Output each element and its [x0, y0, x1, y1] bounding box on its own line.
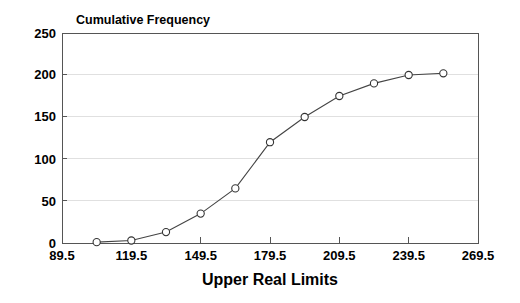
data-point — [370, 80, 377, 87]
chart-canvas: 250 200 150 100 50 0 89.5 119.5 149.5 17… — [0, 0, 520, 303]
xtick-label-239-5: 239.5 — [392, 248, 425, 263]
gridlines — [62, 74, 478, 201]
data-point — [162, 228, 169, 235]
xtick-label-149-5: 149.5 — [184, 248, 217, 263]
xtick-label-89-5: 89.5 — [49, 248, 74, 263]
data-point — [232, 185, 239, 192]
plot-border — [62, 33, 478, 243]
ytick-label-50: 50 — [42, 194, 56, 209]
xtick-label-179-5: 179.5 — [254, 248, 287, 263]
y-axis-ticks — [62, 33, 67, 243]
plot-frame — [62, 33, 478, 243]
xtick-label-119-5: 119.5 — [115, 248, 147, 263]
data-point — [128, 237, 135, 244]
ytick-label-100: 100 — [34, 152, 56, 167]
y-tick-labels: 250 200 150 100 50 0 — [34, 26, 56, 251]
xtick-label-269-5: 269.5 — [462, 248, 495, 263]
data-point — [93, 239, 100, 246]
data-point — [266, 139, 273, 146]
data-point — [440, 70, 447, 77]
xtick-label-209-5: 209.5 — [323, 248, 356, 263]
ytick-label-250: 250 — [34, 26, 56, 41]
ytick-label-150: 150 — [34, 109, 56, 124]
x-axis-title: Upper Real Limits — [202, 271, 338, 288]
cumulative-frequency-chart: 250 200 150 100 50 0 89.5 119.5 149.5 17… — [0, 0, 520, 303]
data-point — [197, 210, 204, 217]
data-series-line — [97, 73, 444, 242]
x-axis-ticks — [62, 237, 478, 243]
data-point — [405, 71, 412, 78]
x-tick-labels: 89.5 119.5 149.5 179.5 209.5 239.5 269.5 — [49, 248, 494, 263]
ytick-label-200: 200 — [34, 67, 56, 82]
data-markers — [93, 70, 447, 246]
chart-title: Cumulative Frequency — [76, 13, 210, 27]
data-point — [301, 113, 308, 120]
data-point — [336, 92, 343, 99]
